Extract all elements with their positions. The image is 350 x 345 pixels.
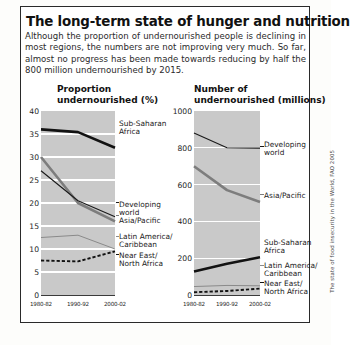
intro-paragraph: Although the proportion of undernourishe…	[25, 31, 306, 76]
chart-number-undernourished: Number of undernourished (millions) 0200…	[172, 84, 312, 320]
source-credit: The state of food insecurity in the Worl…	[329, 150, 335, 293]
series-line	[194, 257, 260, 271]
series-lines	[172, 84, 322, 320]
chart-proportion-undernourished: Proportion undernourished (%) 0510152025…	[24, 84, 174, 320]
series-line	[41, 251, 115, 261]
page-title: The long-term state of hunger and nutrit…	[26, 14, 306, 29]
series-line	[41, 235, 115, 249]
series-line	[41, 171, 115, 217]
series-lines	[24, 84, 174, 320]
series-line	[194, 285, 260, 286]
series-line	[194, 166, 260, 202]
series-line	[194, 289, 260, 293]
series-line	[194, 133, 260, 148]
series-line	[41, 129, 115, 147]
